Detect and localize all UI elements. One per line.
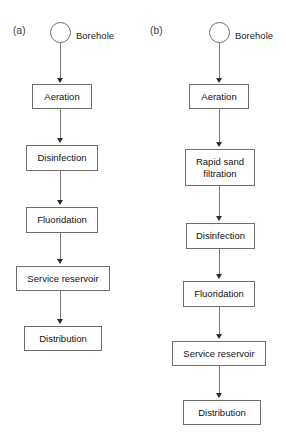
panel-a-arrowhead-5 [57,319,63,324]
panel-b-step-rapid-sand-filtration: Rapid sand filtration [185,149,255,186]
panel-b-step-fluoridation-label: Fluoridation [194,288,244,300]
panel-a-step-disinfection: Disinfection [26,145,98,171]
panel-b-connector-1 [219,43,220,79]
panel-a-arrowhead-1 [57,78,63,83]
panel-a-step-distribution: Distribution [24,326,102,351]
panel-a-connector-2 [60,109,61,139]
panel-a-connector-4 [60,233,61,261]
panel-a-borehole-label: Borehole [76,30,114,41]
panel-a-step-aeration-label: Aeration [44,91,79,103]
panel-b-step-distribution-label: Distribution [198,407,246,419]
panel-a-borehole-circle [50,22,71,43]
panel-b-step-service-reservoir: Service reservoir [172,341,266,366]
panel-b-connector-2 [219,109,220,143]
panel-a-label: (a) [13,25,26,36]
panel-a-arrowhead-4 [57,259,63,264]
panel-a-arrowhead-3 [57,200,63,205]
panel-b-arrowhead-4 [216,274,222,279]
panel-a-connector-5 [60,291,61,320]
panel-b-step-aeration-label: Aeration [201,91,236,103]
panel-b-borehole-circle [209,22,230,43]
panel-b-step-rapid-sand-filtration-label-line2: filtration [203,168,236,180]
panel-a-connector-3 [60,171,61,201]
panel-a-step-service-reservoir: Service reservoir [16,266,110,291]
panel-b-connector-4 [219,249,220,275]
panel-b-step-fluoridation: Fluoridation [183,281,255,307]
panel-b-arrowhead-1 [216,78,222,83]
panel-a-step-service-reservoir-label: Service reservoir [27,273,98,285]
panel-b-step-rapid-sand-filtration-label-line1: Rapid sand [196,156,244,168]
panel-b-borehole-label: Borehole [235,30,273,41]
panel-b-step-disinfection-label: Disinfection [196,230,245,242]
panel-b-arrowhead-6 [216,393,222,398]
panel-b-connector-6 [219,366,220,394]
panel-b-step-distribution: Distribution [183,400,261,425]
panel-b-connector-3 [219,186,220,217]
panel-b-arrowhead-2 [216,142,222,147]
panel-b-step-service-reservoir-label: Service reservoir [183,348,254,360]
panel-b-connector-5 [219,307,220,335]
panel-a-arrowhead-2 [57,138,63,143]
panel-b-label: (b) [150,25,163,36]
panel-b-arrowhead-3 [216,216,222,221]
panel-a-connector-1 [60,43,61,79]
panel-a-step-fluoridation-label: Fluoridation [37,214,87,226]
panel-b-arrowhead-5 [216,334,222,339]
panel-a-step-disinfection-label: Disinfection [37,152,86,164]
panel-b-step-aeration: Aeration [189,84,249,109]
panel-b-step-disinfection: Disinfection [186,223,255,249]
panel-a-step-fluoridation: Fluoridation [26,207,98,233]
water-treatment-flowchart: (a) Borehole Aeration Disinfection Fluor… [0,0,286,435]
panel-a-step-aeration: Aeration [32,84,92,109]
panel-a-step-distribution-label: Distribution [39,333,87,345]
